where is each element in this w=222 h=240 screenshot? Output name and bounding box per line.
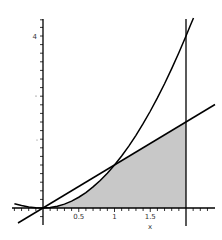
y-tick-label-4: 4 [33, 33, 38, 41]
y-axis-mark [35, 95, 36, 96]
x-tick-label-1.5: 1.5 [145, 213, 156, 221]
x-axis-label: x [148, 223, 152, 231]
chart-canvas: 0.5 1 1.5 4 x [0, 0, 222, 240]
x-tick-label-1: 1 [112, 213, 116, 221]
y-axis-mark [36, 139, 37, 140]
x-tick-label-0.5: 0.5 [73, 213, 84, 221]
